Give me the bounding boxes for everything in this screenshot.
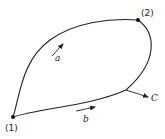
state-1-label: (1): [5, 123, 18, 133]
process-diagram: (1) (2) a b C: [0, 0, 165, 139]
path-b-label: b: [83, 114, 89, 124]
state-1-point: [11, 115, 15, 119]
state-2-point: [136, 18, 140, 22]
path-b-curve: [13, 90, 126, 117]
path-c-arrow: [126, 90, 148, 97]
path-b-direction-arrow: [76, 107, 95, 111]
state-2-label: (2): [141, 8, 154, 18]
path-a-curve: [13, 20, 138, 117]
path-a-label: a: [55, 53, 60, 63]
path-c-label: C: [151, 93, 158, 103]
path-upper-right-curve: [126, 20, 151, 90]
